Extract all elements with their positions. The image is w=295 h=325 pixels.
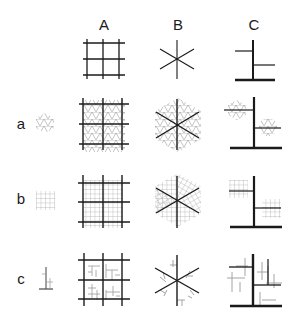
pattern-a-square-grid: [83, 39, 125, 79]
cell-b-A-grid-with-fine-grid: [78, 175, 130, 228]
cell-c-A-grid-with-branches: [78, 253, 130, 306]
motif-a-hex-lattice: [36, 113, 54, 133]
pattern-c-t-branch: [235, 40, 275, 80]
pattern-grid-figure: [0, 0, 295, 325]
motif-b-fine-grid: [36, 191, 55, 210]
pattern-b-six-spoke-star: [160, 40, 194, 79]
cell-c-B-star-with-branches: [155, 255, 199, 306]
cell-c-C-branch-with-branches: [227, 254, 282, 306]
cell-b-C-branch-with-fine-grid: [229, 176, 282, 227]
cell-a-C-branch-with-hex: [224, 97, 282, 148]
cell-a-B-star-with-hex: [150, 95, 210, 155]
motif-c-small-branch: [39, 267, 53, 289]
cell-a-A-grid-with-hex: [79, 98, 129, 152]
cell-b-B-star-with-fine-grid: [155, 173, 201, 228]
